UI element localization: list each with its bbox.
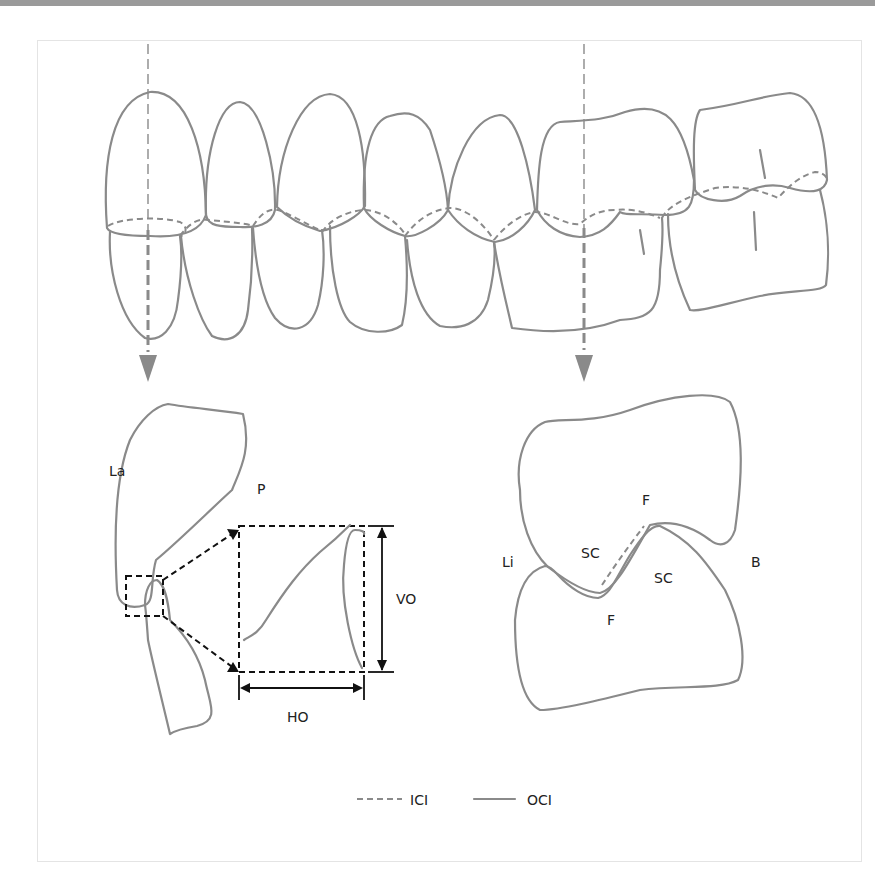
legend-label-oci: OCI xyxy=(527,792,552,808)
label-supporting-cusp-right: SC xyxy=(654,570,673,586)
molar-section xyxy=(515,395,742,710)
label-labial: La xyxy=(109,463,125,479)
arrow-down-icon xyxy=(575,355,593,382)
label-lingual: Li xyxy=(502,554,514,570)
arrow-down-icon xyxy=(139,355,157,382)
legend: ICI OCI xyxy=(357,792,552,808)
legend-label-ici: ICI xyxy=(410,792,428,808)
dental-occlusion-diagram: La P VO HO Li B F F SC SC ICI OCI xyxy=(0,0,875,878)
label-supporting-cusp-left: SC xyxy=(581,545,600,561)
label-vertical-overlap: VO xyxy=(396,591,416,607)
label-buccal: B xyxy=(751,554,761,570)
lower-teeth xyxy=(110,190,828,339)
label-fossa-lower: F xyxy=(607,612,615,628)
label-fossa-upper: F xyxy=(642,492,650,508)
upper-teeth xyxy=(106,92,827,242)
incisor-section xyxy=(116,404,394,734)
label-palatal: P xyxy=(257,481,265,497)
label-horizontal-overlap: HO xyxy=(287,709,309,725)
section-axis-right xyxy=(575,44,593,382)
